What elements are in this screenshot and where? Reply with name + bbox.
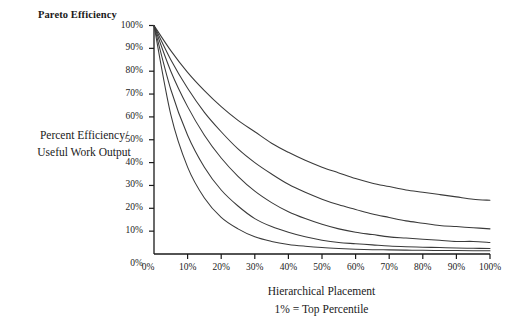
chart-page: Pareto Efficiency Percent Efficiency/ Us…	[0, 0, 522, 321]
curve-curve-4	[154, 26, 490, 249]
axis-lines	[154, 26, 490, 255]
data-curves	[154, 26, 490, 251]
plot-area	[0, 0, 522, 321]
curve-curve-5-fastest-decay	[154, 26, 490, 251]
curve-curve-3	[154, 26, 490, 243]
